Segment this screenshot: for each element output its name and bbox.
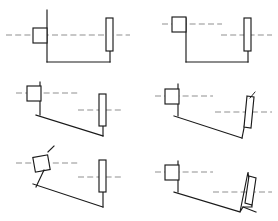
right-bar [106, 18, 113, 51]
left-block [165, 165, 179, 180]
right-bar [99, 94, 106, 126]
diagram-canvas [0, 0, 278, 221]
left-block [27, 86, 41, 101]
right-bar [99, 160, 106, 192]
right-bar [244, 18, 251, 51]
left-block [33, 155, 50, 172]
left-block [165, 89, 179, 104]
technical-diagram-figure [0, 0, 278, 221]
left-block [33, 28, 47, 43]
left-block [172, 17, 186, 32]
